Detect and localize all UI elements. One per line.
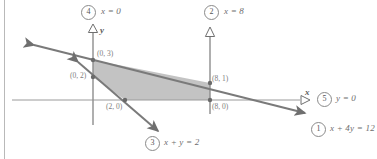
callout-number-5[interactable]: 5 <box>317 92 332 107</box>
equation-label-y-equals-0: y = 0 <box>336 94 356 103</box>
point-label-0-3: (0, 3) <box>97 50 113 58</box>
point-label-8-1: (8, 1) <box>212 75 228 83</box>
callout-number-3[interactable]: 3 <box>145 136 160 151</box>
shaded-feasible-region <box>93 60 210 100</box>
point-label-2-0: (2, 0) <box>106 103 122 111</box>
equation-label-x-equals-0: x = 0 <box>101 7 121 16</box>
y-axis-label: y <box>100 26 104 35</box>
vertex-dot-0-3 <box>91 58 95 62</box>
y-axis-arrowhead-icon <box>88 24 97 33</box>
x-axis-label: x <box>305 88 310 97</box>
line-x-equals-8-arrowhead-icon <box>205 27 214 37</box>
equation-label-x-plus-y-equals-2: x + y = 2 <box>164 138 199 147</box>
point-label-0-2: (0, 2) <box>70 72 86 80</box>
vertex-dot-0-2 <box>91 75 95 79</box>
callout-number-2[interactable]: 2 <box>204 5 219 20</box>
equation-label-x-plus-4y-equals-12: x + 4y = 12 <box>330 124 375 133</box>
vertex-dot-2-0 <box>123 98 127 102</box>
point-label-8-0: (8, 0) <box>212 103 228 111</box>
equation-label-x-equals-8: x = 8 <box>224 7 244 16</box>
callout-number-1[interactable]: 1 <box>311 122 326 137</box>
callout-number-4[interactable]: 4 <box>81 5 96 20</box>
